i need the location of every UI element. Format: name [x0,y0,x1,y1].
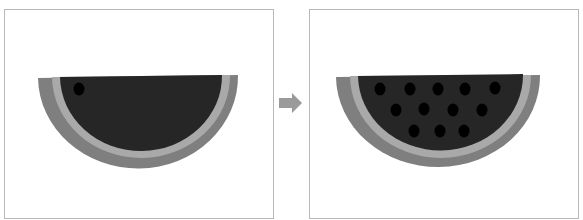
seeds [74,83,85,96]
diagram-canvas [0,0,583,220]
seed [448,104,459,117]
seed [405,83,416,96]
seed [433,83,444,96]
watermelon-after [336,74,540,167]
seed [459,125,470,138]
seed [74,83,85,96]
seed [419,103,430,116]
watermelon-before [38,75,238,169]
right-arrow-icon [279,93,302,113]
seed [435,125,446,138]
seed [477,104,488,117]
seed [409,125,420,138]
seed [460,83,471,96]
seed [391,104,402,117]
seed [375,83,386,96]
seed [490,82,501,95]
